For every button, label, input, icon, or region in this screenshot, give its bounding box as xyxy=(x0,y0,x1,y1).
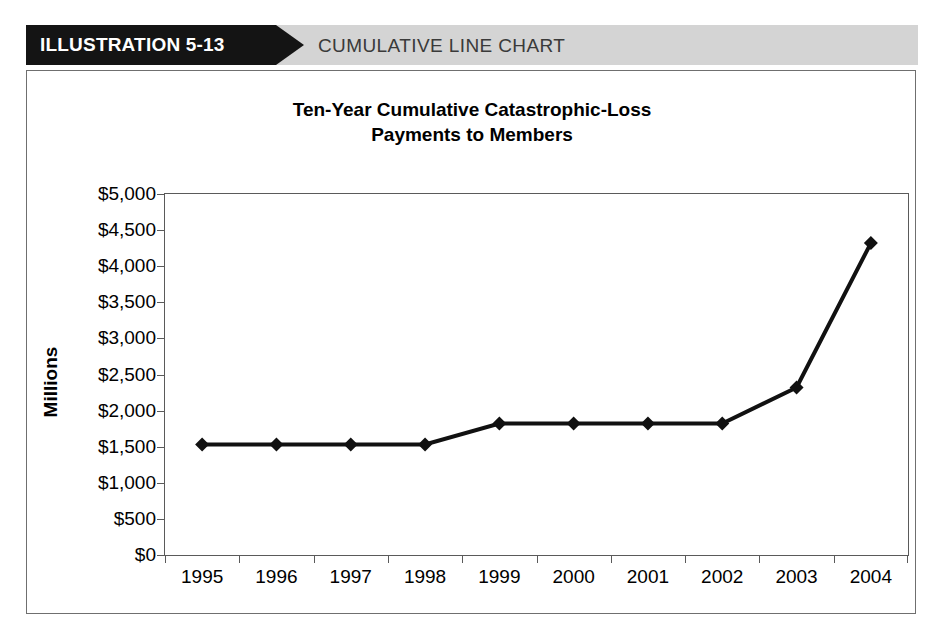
x-axis-tick-mark xyxy=(611,555,612,563)
x-axis-tick-label: 2004 xyxy=(850,566,892,588)
x-axis-tick-label: 2003 xyxy=(775,566,817,588)
data-point-marker xyxy=(195,438,209,452)
y-axis-tick-label: $1,500 xyxy=(46,436,156,458)
x-axis-tick-label: 2002 xyxy=(701,566,743,588)
y-axis-tick-mark xyxy=(157,483,164,484)
data-line xyxy=(202,243,871,444)
illustration-page: ILLUSTRATION 5-13 CUMULATIVE LINE CHART … xyxy=(0,0,941,638)
chart-container: Ten-Year Cumulative Catastrophic-Loss Pa… xyxy=(26,70,916,614)
x-axis-tick-mark xyxy=(759,555,760,563)
data-point-marker xyxy=(344,438,358,452)
illustration-banner: ILLUSTRATION 5-13 CUMULATIVE LINE CHART xyxy=(26,25,918,65)
x-axis-tick-label: 1999 xyxy=(478,566,520,588)
y-axis-tick-mark xyxy=(157,266,164,267)
x-axis-tick-mark xyxy=(834,555,835,563)
y-axis-tick-label: $500 xyxy=(46,508,156,530)
illustration-type-label: CUMULATIVE LINE CHART xyxy=(318,25,565,65)
data-point-marker xyxy=(269,438,283,452)
y-axis-tick-label: $1,000 xyxy=(46,472,156,494)
y-axis-tick-mark xyxy=(157,447,164,448)
y-axis-tick-label: $5,000 xyxy=(46,183,156,205)
chart-title-line-2: Payments to Members xyxy=(27,122,917,147)
plot-area xyxy=(164,193,909,556)
data-point-marker xyxy=(864,236,878,250)
data-point-marker xyxy=(492,417,506,431)
y-axis-tick-label: $3,500 xyxy=(46,291,156,313)
x-axis-tick-mark xyxy=(537,555,538,563)
x-axis-tick-label: 1997 xyxy=(330,566,372,588)
y-axis-tick-mark xyxy=(157,519,164,520)
data-point-marker xyxy=(790,380,804,394)
y-axis-tick-mark xyxy=(157,338,164,339)
y-axis-tick-label: $0 xyxy=(46,544,156,566)
y-axis-tick-mark xyxy=(157,411,164,412)
y-axis-tick-mark xyxy=(157,375,164,376)
chart-title: Ten-Year Cumulative Catastrophic-Loss Pa… xyxy=(27,97,917,147)
x-axis-tick-mark xyxy=(239,555,240,563)
x-axis-tick-label: 2000 xyxy=(553,566,595,588)
line-chart-svg xyxy=(165,194,908,555)
y-axis-tick-mark xyxy=(157,555,164,556)
x-axis-tick-mark xyxy=(165,555,166,563)
y-axis-tick-label: $2,500 xyxy=(46,364,156,386)
x-axis-tick-mark xyxy=(685,555,686,563)
x-axis-tick-label: 1998 xyxy=(404,566,446,588)
y-axis-tick-label: $4,000 xyxy=(46,255,156,277)
x-axis-tick-mark xyxy=(907,555,908,563)
data-point-marker xyxy=(715,417,729,431)
x-axis-tick-label: 2001 xyxy=(627,566,669,588)
y-axis-tick-label: $2,000 xyxy=(46,400,156,422)
x-axis-tick-mark xyxy=(388,555,389,563)
illustration-number-label: ILLUSTRATION 5-13 xyxy=(40,25,225,65)
y-axis-tick-label: $4,500 xyxy=(46,219,156,241)
banner-arrow-icon xyxy=(276,25,304,65)
y-axis-tick-mark xyxy=(157,230,164,231)
chart-title-line-1: Ten-Year Cumulative Catastrophic-Loss xyxy=(293,99,652,120)
x-axis-tick-mark xyxy=(314,555,315,563)
data-point-marker xyxy=(567,417,581,431)
x-axis-tick-label: 1995 xyxy=(181,566,223,588)
x-axis-tick-mark xyxy=(462,555,463,563)
data-point-marker xyxy=(641,417,655,431)
data-point-marker xyxy=(418,438,432,452)
x-axis-tick-label: 1996 xyxy=(255,566,297,588)
y-axis-tick-mark xyxy=(157,194,164,195)
y-axis-tick-mark xyxy=(157,302,164,303)
y-axis-tick-label: $3,000 xyxy=(46,327,156,349)
